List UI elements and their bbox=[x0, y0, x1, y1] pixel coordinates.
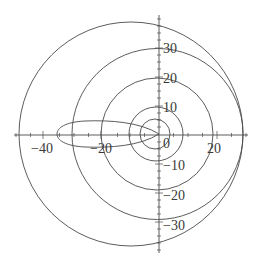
y-label-neg20: −20 bbox=[163, 188, 185, 203]
y-label-10: 10 bbox=[163, 100, 177, 115]
circle-4 bbox=[129, 107, 183, 161]
x-label-0: 0 bbox=[163, 136, 170, 151]
y-label-neg10: −10 bbox=[163, 158, 185, 173]
y-label-neg30: −30 bbox=[163, 218, 185, 233]
x-label-neg40: −40 bbox=[31, 141, 53, 156]
x-label-20: 20 bbox=[207, 141, 221, 156]
circle-1 bbox=[19, 22, 243, 246]
y-label-30: 30 bbox=[163, 41, 177, 56]
polar-plot: −40 −20 0 20 30 20 10 −10 −20 −30 bbox=[0, 0, 256, 265]
x-label-neg20: −20 bbox=[90, 141, 112, 156]
y-label-20: 20 bbox=[163, 71, 177, 86]
circle-2 bbox=[72, 49, 243, 220]
